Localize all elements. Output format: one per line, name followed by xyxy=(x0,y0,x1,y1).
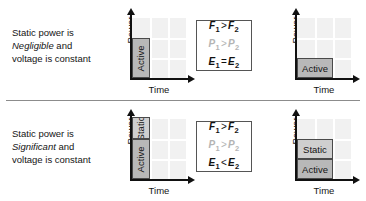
eq-rhs-sub: 2 xyxy=(235,144,239,153)
eq-operator: > xyxy=(220,20,228,31)
eq-operator: > xyxy=(220,121,228,132)
gridline-vertical xyxy=(150,18,152,78)
x-axis-arrow-icon xyxy=(295,179,354,181)
equation-row: P1>P2 xyxy=(208,138,239,156)
gridline-vertical xyxy=(333,18,335,78)
plot-area: Active xyxy=(132,18,186,78)
block-label: Active xyxy=(136,45,147,71)
x-axis-label: Time xyxy=(126,84,192,96)
x-axis-label: Time xyxy=(291,185,357,197)
block-label: Active xyxy=(302,164,328,175)
gridline-horizontal xyxy=(297,38,351,40)
eq-rhs-sub: 2 xyxy=(234,126,238,135)
block-active: Active xyxy=(297,58,333,78)
equation-row: F1>F2 xyxy=(209,120,239,138)
equation-row: E1<E2 xyxy=(208,156,239,174)
row-significant-static-power: Static power is Significant and voltage … xyxy=(0,101,366,201)
eq-rhs-sub: 2 xyxy=(235,162,239,171)
block-active: Active xyxy=(297,159,333,179)
eq-rhs: P xyxy=(228,139,235,150)
x-axis-arrow-icon xyxy=(130,179,189,181)
block-label: Static xyxy=(136,117,147,139)
plot-area: Active Static xyxy=(132,119,186,179)
chart-top-right: Power Active Time xyxy=(277,8,357,96)
caption-emphasis: Negligible xyxy=(12,40,54,51)
eq-operator: > xyxy=(220,139,228,150)
block-static: Static xyxy=(297,139,333,159)
plot-area: Active Static xyxy=(297,119,351,179)
x-axis-label: Time xyxy=(291,84,357,96)
chart-bottom-right: Power Active Static Time xyxy=(277,109,357,197)
block-label: Active xyxy=(136,146,147,172)
x-axis-arrow-icon xyxy=(295,78,354,80)
gridline-vertical xyxy=(333,119,335,179)
block-active: Active xyxy=(132,38,150,78)
eq-rhs: E xyxy=(228,157,235,168)
eq-rhs: E xyxy=(228,56,235,67)
chart-top-left: Power Active Time xyxy=(112,8,192,96)
chart-bottom-left: Power Active Static Time xyxy=(112,109,192,197)
caption-line-2-suffix: and xyxy=(54,40,73,51)
eq-rhs-sub: 2 xyxy=(234,25,238,34)
block-label: Active xyxy=(302,63,328,74)
eq-operator: > xyxy=(220,38,228,49)
eq-rhs-sub: 2 xyxy=(235,61,239,70)
block-label: Static xyxy=(303,144,327,155)
plot-area: Active xyxy=(297,18,351,78)
power-time-figure: Static power is Negligible and voltage i… xyxy=(0,0,366,201)
block-static: Static xyxy=(132,117,150,139)
equation-row: F1>F2 xyxy=(209,19,239,37)
eq-rhs: P xyxy=(228,38,235,49)
equation-row: E1=E2 xyxy=(208,55,239,73)
x-axis-arrow-icon xyxy=(130,78,189,80)
gridline-vertical xyxy=(168,119,170,179)
caption-line-2-suffix: and xyxy=(56,141,75,152)
gridline-vertical xyxy=(150,119,152,179)
block-active: Active xyxy=(132,139,150,179)
equations-box-top: F1>F2 P1>P2 E1=E2 xyxy=(196,20,252,71)
caption-emphasis: Significant xyxy=(12,141,56,152)
eq-operator: = xyxy=(220,56,228,67)
equation-row: P1>P2 xyxy=(208,37,239,55)
eq-rhs-sub: 2 xyxy=(235,43,239,52)
x-axis-label: Time xyxy=(126,185,192,197)
gridline-vertical xyxy=(168,18,170,78)
equations-box-bottom: F1>F2 P1>P2 E1<E2 xyxy=(196,121,252,172)
eq-operator: < xyxy=(220,157,228,168)
row-negligible-static-power: Static power is Negligible and voltage i… xyxy=(0,0,366,100)
